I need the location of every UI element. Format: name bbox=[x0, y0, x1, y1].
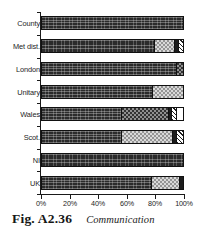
figure-caption: Fig. A2.36 Communication bbox=[12, 211, 198, 231]
y-tick bbox=[37, 58, 41, 59]
bar-scot bbox=[41, 130, 184, 144]
y-tick bbox=[37, 12, 41, 13]
bar-county bbox=[41, 16, 184, 30]
x-tick-label: 100% bbox=[169, 199, 198, 208]
y-tick bbox=[37, 103, 41, 104]
stacked-bar bbox=[41, 107, 184, 121]
stacked-bar bbox=[41, 62, 184, 76]
bar-segment-hatch bbox=[177, 131, 183, 143]
x-tick-label: 60% bbox=[112, 199, 142, 208]
bar-segment-hatch bbox=[179, 40, 183, 52]
category-label-ni: NI bbox=[4, 156, 40, 165]
x-tick-label: 0% bbox=[26, 199, 56, 208]
bar-segment-dark bbox=[42, 154, 183, 166]
x-tick-label: 80% bbox=[140, 199, 170, 208]
category-label-scot: Scot. bbox=[4, 133, 40, 142]
bar-segment-dark bbox=[42, 108, 122, 120]
bar-segment-light-gray bbox=[152, 177, 180, 189]
bar-segment-black bbox=[180, 177, 183, 189]
stacked-bar bbox=[41, 16, 184, 30]
bar-segment-mid-gray bbox=[122, 108, 169, 120]
category-label-met-dist: Met dist. bbox=[4, 42, 40, 51]
bar-segment-dark bbox=[42, 63, 177, 75]
bar-segment-dark bbox=[42, 131, 122, 143]
bar-wales bbox=[41, 107, 184, 121]
x-axis-line bbox=[40, 194, 185, 195]
category-label-unitary: Unitary bbox=[4, 88, 40, 97]
y-tick bbox=[37, 171, 41, 172]
bar-uk bbox=[41, 176, 184, 190]
figure-a2-36: CountyMet dist.LondonUnitaryWalesScot.NI… bbox=[0, 0, 198, 234]
stacked-bar bbox=[41, 39, 184, 53]
y-tick bbox=[37, 35, 41, 36]
caption-figure-number: Fig. A2.36 bbox=[12, 211, 72, 227]
bar-segment-mid-gray bbox=[177, 63, 183, 75]
bar-segment-dark bbox=[42, 86, 153, 98]
y-tick bbox=[37, 126, 41, 127]
y-tick bbox=[37, 149, 41, 150]
category-label-london: London bbox=[4, 65, 40, 74]
bar-segment-light-gray bbox=[153, 86, 183, 98]
bar-segment-dark bbox=[42, 177, 152, 189]
bar-segment-dark bbox=[42, 40, 155, 52]
bar-unitary bbox=[41, 85, 184, 99]
y-tick bbox=[37, 80, 41, 81]
bar-segment-light-gray bbox=[155, 40, 175, 52]
x-tick-label: 20% bbox=[55, 199, 85, 208]
stacked-bar bbox=[41, 85, 184, 99]
bar-ni bbox=[41, 153, 184, 167]
bar-segment-light-gray bbox=[122, 131, 173, 143]
category-label-wales: Wales bbox=[4, 110, 40, 119]
caption-title: Communication bbox=[86, 214, 154, 225]
bar-segment-dark bbox=[42, 17, 183, 29]
stacked-bar bbox=[41, 130, 184, 144]
category-label-uk: UK bbox=[4, 179, 40, 188]
bar-met-dist bbox=[41, 39, 184, 53]
category-label-county: County bbox=[4, 19, 40, 28]
bar-london bbox=[41, 62, 184, 76]
stacked-bar bbox=[41, 153, 184, 167]
x-tick-label: 40% bbox=[83, 199, 113, 208]
bar-segment-white bbox=[177, 108, 183, 120]
stacked-bar bbox=[41, 176, 184, 190]
